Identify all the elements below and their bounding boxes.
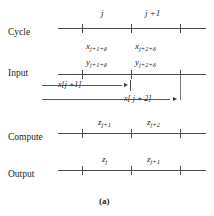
row-label-input: Input <box>8 68 28 79</box>
input-drop-line <box>180 75 181 100</box>
cycle-tick-1 <box>131 24 132 33</box>
compute-mark-0: zj+1 <box>98 117 111 130</box>
arrow-label-xj1: x[j +1] <box>58 80 81 89</box>
output-sub-0: j <box>106 158 108 165</box>
arrow-head-xj1 <box>124 83 128 87</box>
input-x-mark-1: xj+2+δ <box>135 41 156 54</box>
cycle-mark-0: j <box>101 8 104 18</box>
output-tick-2 <box>180 166 181 175</box>
arrow-stop-xj1 <box>130 80 131 91</box>
input-y-sub-1: j+2+δ <box>139 61 156 68</box>
output-tick-1 <box>131 166 132 175</box>
output-sub-1: j+1 <box>151 158 160 165</box>
compute-tick-0 <box>82 129 83 138</box>
cycle-tick-0 <box>82 24 83 33</box>
compute-tick-1 <box>131 129 132 138</box>
figure-caption: (a) <box>99 196 110 206</box>
output-mark-1: zj+1 <box>147 154 160 167</box>
compute-sub-1: j+2 <box>151 121 160 128</box>
input-x-mark-0: xj+1+δ <box>86 41 107 54</box>
compute-mark-1: zj+2 <box>147 117 160 130</box>
input-y-sub-0: j+1+δ <box>90 61 107 68</box>
input-x-sub-0: j+1+δ <box>90 45 107 52</box>
output-axis <box>58 170 206 171</box>
arrow-label-xj2: x[ j + 2] <box>124 94 151 103</box>
row-label-output: Output <box>8 169 34 180</box>
output-tick-0 <box>82 166 83 175</box>
input-y-mark-0: yj+1+δ <box>86 57 107 70</box>
arrow-head-xj2 <box>173 97 177 101</box>
arrow-line-xj1 <box>42 85 122 86</box>
compute-axis <box>58 133 206 134</box>
input-tick-0 <box>82 70 83 79</box>
input-x-sub-1: j+2+δ <box>139 45 156 52</box>
timing-diagram: Cycle j j +1 Input xj+1+δ xj+2+δ yj+1+δ … <box>0 0 214 216</box>
compute-tick-2 <box>180 129 181 138</box>
input-axis <box>58 74 206 75</box>
cycle-axis <box>58 28 206 29</box>
input-y-mark-1: yj+2+δ <box>135 57 156 70</box>
row-label-cycle: Cycle <box>8 27 30 38</box>
output-mark-0: zj <box>102 154 107 167</box>
compute-sub-0: j+1 <box>102 121 111 128</box>
input-tick-1 <box>131 70 132 79</box>
cycle-tick-2 <box>180 24 181 33</box>
cycle-mark-1: j +1 <box>145 8 160 18</box>
row-label-compute: Compute <box>8 132 43 143</box>
